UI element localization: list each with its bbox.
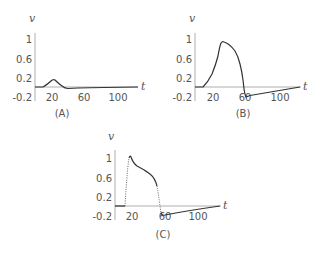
x-axis-label: t (303, 80, 308, 93)
panel-label: (A) (55, 108, 70, 119)
curve-b (195, 42, 300, 97)
panel-label: (C) (156, 229, 171, 240)
x-tick: 20 (46, 92, 59, 103)
x-axis-label: t (223, 199, 228, 212)
panel-a: v t 1 0.6 0.2 -0.2 20 60 100 (A) (12, 12, 146, 119)
repolarization-dotted (157, 186, 161, 213)
y-axis-label: v (29, 12, 36, 25)
panel-c: v t 1 0.6 0.2 -0.2 20 60 100 (C) (92, 130, 228, 240)
y-tick: 0.2 (176, 73, 192, 84)
y-tick: 1 (26, 34, 32, 45)
y-tick: -0.2 (92, 211, 112, 222)
x-tick: 20 (126, 211, 139, 222)
x-axis-label: t (141, 80, 146, 93)
x-tick: 100 (108, 92, 127, 103)
y-axis-label: v (189, 12, 196, 25)
x-tick: 60 (159, 211, 172, 222)
x-tick: 20 (207, 92, 220, 103)
figure: v t 1 0.6 0.2 -0.2 20 60 100 (A) v t 1 0… (0, 0, 317, 253)
x-tick: 60 (78, 92, 91, 103)
y-tick: 0.2 (96, 192, 112, 203)
x-tick: 100 (270, 92, 289, 103)
y-tick: -0.2 (172, 92, 192, 103)
curve-c (129, 156, 157, 186)
y-tick: 0.6 (16, 54, 32, 65)
y-tick: -0.2 (12, 92, 32, 103)
y-tick: 0.6 (96, 173, 112, 184)
y-tick: 1 (106, 153, 112, 164)
y-tick: 0.6 (176, 54, 192, 65)
y-tick: 1 (186, 34, 192, 45)
upstroke-dotted (125, 158, 129, 206)
y-tick: 0.2 (16, 73, 32, 84)
x-tick: 100 (188, 211, 207, 222)
panel-b: v t 1 0.6 0.2 -0.2 20 60 100 (B) (172, 12, 308, 119)
y-axis-label: v (108, 130, 115, 143)
panel-label: (B) (236, 108, 251, 119)
